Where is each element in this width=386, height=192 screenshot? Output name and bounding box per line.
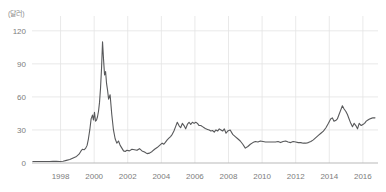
chart-container: (달러) 0306090120 199820002002200420062008… — [0, 0, 386, 192]
x-axis-tick-label: 2002 — [119, 172, 137, 181]
x-axis-tick-label: 2004 — [152, 172, 170, 181]
x-axis-tick-label: 2000 — [85, 172, 103, 181]
y-axis-tick-label: 60 — [17, 93, 26, 102]
x-axis-tick-label: 2016 — [354, 172, 372, 181]
x-axis-tick-label: 2010 — [253, 172, 271, 181]
grid-layer — [32, 16, 378, 163]
y-axis-tick-labels: 0306090120 — [13, 27, 27, 168]
y-axis-tick-label: 90 — [17, 60, 26, 69]
line-chart-svg: 0306090120 19982000200220042006200820102… — [0, 0, 386, 192]
series-line-price — [33, 42, 375, 162]
y-axis-tick-label: 120 — [13, 27, 27, 36]
x-axis-tick-label: 2006 — [186, 172, 204, 181]
x-axis-tick-label: 2014 — [320, 172, 338, 181]
x-axis-tick-label: 2008 — [220, 172, 238, 181]
data-series-layer — [33, 42, 375, 162]
x-axis-tick-label: 1998 — [52, 172, 70, 181]
x-axis-tick-label: 2012 — [287, 172, 305, 181]
y-axis-tick-label: 30 — [17, 126, 26, 135]
y-axis-tick-label: 0 — [22, 159, 27, 168]
x-axis-tick-labels: 1998200020022004200620082010201220142016 — [52, 172, 373, 181]
